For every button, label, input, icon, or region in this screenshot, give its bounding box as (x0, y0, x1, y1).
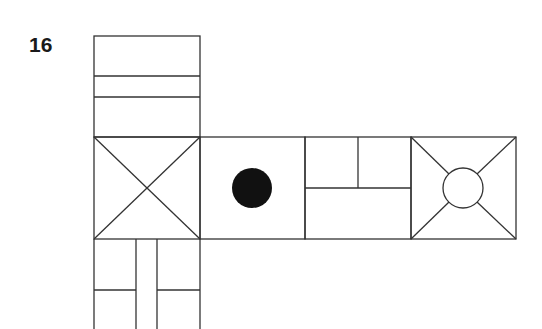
cube-net-diagram (0, 0, 542, 329)
third-face (305, 137, 411, 239)
solid-dot-icon (232, 168, 272, 208)
right-face (411, 137, 516, 239)
left-face (94, 137, 200, 239)
top-face (94, 36, 200, 137)
hollow-circle-icon (443, 168, 483, 208)
bottom-face (94, 239, 200, 329)
